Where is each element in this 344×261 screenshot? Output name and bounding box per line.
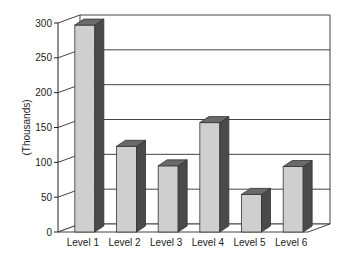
bar-side [137, 140, 146, 232]
bar-side [178, 160, 187, 232]
bar-front [75, 25, 95, 232]
x-tick-label: Level 2 [108, 237, 141, 248]
bar-side [262, 188, 271, 232]
x-tick-label: Level 4 [192, 237, 225, 248]
x-tick-label: Level 6 [275, 237, 308, 248]
bar-front [200, 123, 220, 232]
bar-front [117, 146, 137, 232]
bar-front [158, 166, 178, 232]
y-tick-label: 150 [35, 122, 52, 133]
y-tick-label: 300 [35, 18, 52, 29]
gridline-side [58, 15, 80, 23]
bar-side [303, 161, 312, 232]
bar-side [95, 19, 104, 232]
y-tick-label: 250 [35, 52, 52, 63]
chart-canvas: 050100150200250300(Thousands)Level 1Leve… [0, 0, 344, 261]
x-tick-label: Level 5 [233, 237, 266, 248]
y-tick-label: 100 [35, 157, 52, 168]
x-tick-label: Level 3 [150, 237, 183, 248]
bar-chart: 050100150200250300(Thousands)Level 1Leve… [0, 0, 344, 261]
bar-side [220, 117, 229, 232]
y-tick-label: 0 [46, 227, 52, 238]
bar-front [283, 167, 303, 232]
x-tick-label: Level 1 [67, 237, 100, 248]
y-axis-label: (Thousands) [21, 99, 32, 155]
y-tick-label: 50 [41, 192, 53, 203]
bar-front [242, 194, 262, 232]
y-tick-label: 200 [35, 87, 52, 98]
